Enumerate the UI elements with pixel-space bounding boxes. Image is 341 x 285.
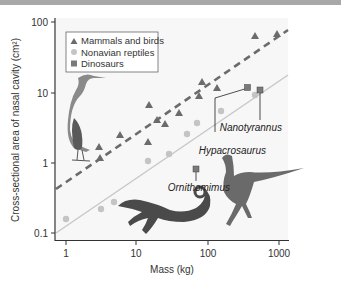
x-tick-label: 1 (63, 248, 69, 259)
legend-label-reptiles: Nonavian reptiles (81, 47, 155, 58)
y-tick-label: 10 (37, 88, 49, 99)
legend-circle-icon (71, 49, 77, 55)
y-tick-label: 1 (42, 158, 48, 169)
x-tick-label: 100 (200, 248, 217, 259)
y-tick-label: 0.1 (34, 228, 48, 239)
annotation-ornithomimus: Ornithomimus (168, 182, 230, 193)
annotation-nanotyrannus: Nanotyrannus (220, 122, 282, 133)
legend-label-mammals-birds: Mammals and birds (81, 35, 164, 46)
x-tick-label: 1000 (268, 248, 291, 259)
x-axis-title: Mass (kg) (150, 264, 194, 275)
y-axis-title: Cross-sectional area of nasal cavity (cm… (10, 38, 21, 222)
legend-square-icon (71, 61, 77, 67)
x-tick-label: 10 (130, 248, 142, 259)
legend-label-dinosaurs: Dinosaurs (81, 58, 124, 69)
legend: Mammals and birds Nonavian reptiles Dino… (66, 32, 164, 72)
x-ticks (66, 241, 279, 245)
scatter-chart: 100 10 1 0.1 1 10 100 1000 Mass (kg) Cro… (0, 0, 341, 285)
annotation-hypacrosaurus: Hypacrosaurus (199, 145, 266, 156)
y-tick-label: 100 (31, 17, 48, 28)
